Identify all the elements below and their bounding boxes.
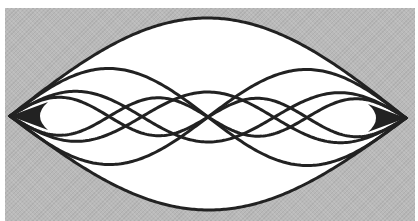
lens-envelope — [10, 18, 406, 210]
standing-wave-diagram — [0, 0, 418, 221]
